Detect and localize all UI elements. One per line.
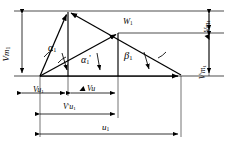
label-v-prime-m1-v: V (198, 74, 207, 79)
label-v-prime-m1: V'm1 (199, 65, 208, 79)
label-u1-sub: 1 (107, 126, 110, 132)
witness-lines (40, 11, 209, 137)
label-vu1-sub: 1 (41, 89, 43, 94)
beta1-arc (158, 52, 166, 58)
delta-icon (205, 33, 210, 40)
label-beta1: β1 (124, 51, 132, 62)
label-delta-vm1-text: Vm (203, 22, 212, 32)
projection-lines (68, 12, 118, 76)
vector-diagram-figure: Vm1 Vm1 V'm1 W1 α1 α1' β1 Vu1 Vu V'u1 u1 (0, 0, 232, 153)
label-alpha1: α1 (48, 43, 56, 53)
label-delta-vm1: Vm1 (204, 20, 212, 39)
w1-vector (40, 35, 116, 77)
label-delta-vu: Vu (80, 85, 95, 93)
label-alpha1-prime-mark: ' (89, 53, 91, 63)
label-v-prime-u1: V'u1 (63, 103, 76, 112)
label-v-prime-m1-prime: ' (198, 73, 205, 74)
label-vu1: Vu1 (33, 86, 44, 95)
alpha1-prime-pointer (97, 53, 100, 70)
label-w1: W1 (123, 17, 133, 26)
label-alpha1-sub: 1 (53, 46, 56, 53)
label-u1: u1 (102, 123, 109, 133)
velocity-vectors (40, 13, 181, 76)
label-vm1: Vm1 (2, 47, 12, 62)
label-alpha1-prime: α1' (81, 54, 91, 65)
label-v-prime-m1-rest: m (198, 67, 207, 73)
delta-icon-vu (79, 86, 86, 91)
beta1-pointer (144, 52, 149, 69)
angle-indicators (44, 50, 166, 70)
label-beta1-sub: 1 (129, 54, 132, 61)
label-v-prime-u1-sub: 1 (73, 106, 75, 111)
horizontal-dimension-arrows (22, 93, 178, 134)
label-delta-vm1-sub: 1 (206, 20, 211, 22)
label-w1-sub: 1 (130, 20, 133, 26)
label-v-prime-m1-sub: 1 (202, 65, 207, 67)
reference-lines (14, 11, 224, 76)
label-vm1-text: Vm (1, 50, 11, 62)
label-delta-vu-text: Vu (87, 84, 95, 93)
label-vm1-sub: 1 (5, 47, 11, 50)
